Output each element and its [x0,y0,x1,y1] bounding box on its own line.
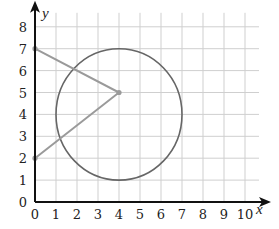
y-tick-label: 5 [19,86,27,101]
y-tick-label: 2 [19,151,27,166]
x-tick-label: 8 [199,207,207,222]
y-tick-label: 7 [19,42,27,57]
x-tick-label: 10 [237,207,254,222]
y-tick-label: 1 [19,173,27,188]
y-tick-label: 4 [19,107,27,122]
x-tick-label: 2 [73,207,81,222]
x-tick-label: 1 [52,207,60,222]
axes [30,1,271,207]
y-tick-label: 0 [19,195,27,210]
x-tick-label: 0 [31,207,39,222]
x-tick-label: 3 [94,207,102,222]
x-axis-label: x [255,201,263,217]
y-tick-label: 3 [19,129,27,144]
x-tick-label: 4 [115,207,123,222]
shapes [32,46,182,180]
y-axis-label: y [40,5,49,21]
x-tick-label: 5 [136,207,144,222]
y-tick-label: 8 [19,20,27,35]
data-point [116,90,121,95]
x-tick-label: 9 [220,207,228,222]
chart: 012345678910012345678 x y [0,0,279,229]
y-tick-label: 6 [19,64,27,79]
x-tick-label: 6 [157,207,165,222]
x-tick-label: 7 [178,207,186,222]
